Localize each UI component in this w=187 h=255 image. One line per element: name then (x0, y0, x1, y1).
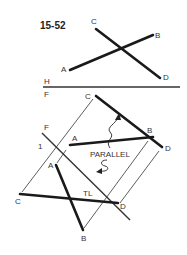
front-line-ab (70, 137, 153, 145)
aux-label-a: A (48, 161, 54, 170)
proj-c (22, 99, 93, 192)
f1-line (42, 133, 130, 220)
front-view: C B A D PARALLEL (70, 92, 171, 174)
folding-line-hf: H F (43, 77, 180, 99)
front-label-b: B (147, 126, 152, 135)
front-label-a: A (72, 134, 78, 143)
projection-lines (22, 99, 159, 228)
aux-label-c: C (15, 197, 21, 206)
folding-line-f1: F 1 (38, 123, 130, 220)
hf-label-f: F (44, 90, 49, 99)
aux-label-d: D (120, 202, 126, 211)
parallel-annotation: PARALLEL (90, 150, 130, 159)
top-label-d: D (163, 73, 169, 82)
parallel-arrow (108, 117, 118, 148)
top-label-a: A (61, 65, 67, 74)
top-label-c: C (91, 17, 97, 26)
f1-arrow (101, 160, 108, 171)
front-label-c: C (85, 92, 91, 101)
f1-arrowhead (96, 168, 102, 174)
front-label-d: D (165, 144, 171, 153)
f1-label-1: 1 (38, 142, 43, 151)
aux-label-b: B (81, 234, 86, 243)
auxiliary-view: C D A B TL (15, 161, 126, 243)
top-view: C B A D (61, 17, 169, 82)
descriptive-geometry-diagram: 15-52 C B A D H F F 1 C B A D PARALLEL (0, 0, 187, 255)
figure-number: 15-52 (40, 20, 66, 31)
tl-annotation: TL (83, 189, 93, 198)
hf-label-h: H (44, 77, 50, 86)
top-label-b: B (155, 31, 160, 40)
f1-label-f: F (44, 123, 49, 132)
